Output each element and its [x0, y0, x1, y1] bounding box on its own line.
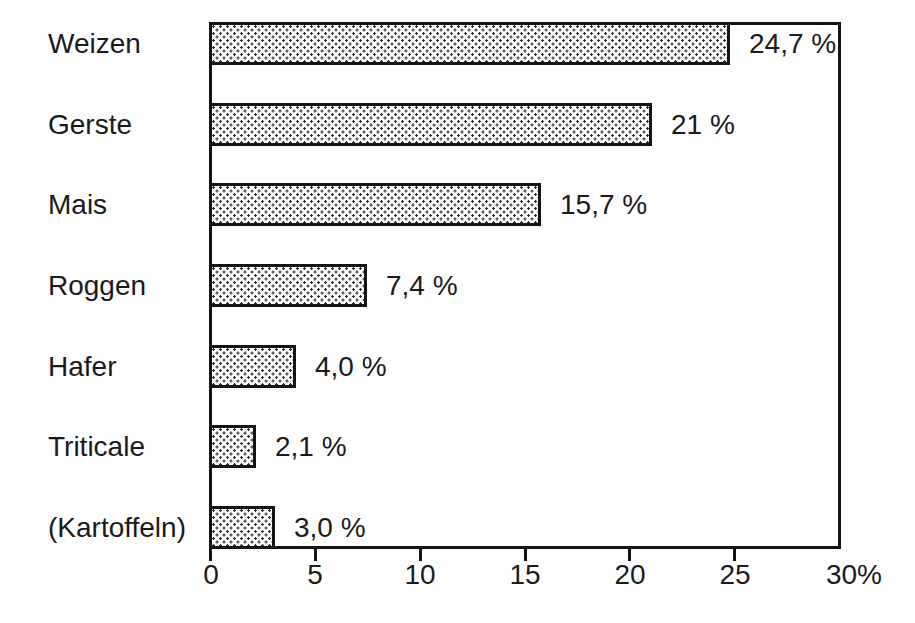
x-axis-tick-label: 0 — [166, 560, 256, 591]
x-axis-tick-label: 20 — [585, 560, 675, 591]
x-axis-tick-label: 30% — [809, 560, 899, 591]
category-label: Weizen — [48, 28, 141, 59]
category-label: Mais — [48, 189, 107, 220]
x-axis-tick-label: 5 — [270, 560, 360, 591]
bar — [209, 506, 275, 549]
value-label: 15,7 % — [560, 189, 647, 220]
value-label: 21 % — [671, 109, 735, 140]
category-label: (Kartoffeln) — [48, 512, 186, 543]
bar — [209, 183, 541, 226]
bar — [209, 103, 652, 146]
category-label: Gerste — [48, 109, 132, 140]
bar — [209, 264, 367, 307]
value-label: 4,0 % — [315, 351, 387, 382]
x-axis-tick-label: 10 — [375, 560, 465, 591]
category-label: Hafer — [48, 351, 116, 382]
x-axis-tick-label: 25 — [690, 560, 780, 591]
bar — [209, 345, 296, 388]
crop-share-bar-chart: Weizen24,7 %Gerste21 %Mais15,7 %Roggen7,… — [0, 0, 915, 623]
category-label: Roggen — [48, 270, 146, 301]
bar — [209, 425, 256, 468]
value-label: 7,4 % — [386, 270, 458, 301]
value-label: 3,0 % — [294, 512, 366, 543]
category-label: Triticale — [48, 431, 145, 462]
value-label: 24,7 % — [749, 28, 836, 59]
value-label: 2,1 % — [275, 431, 347, 462]
bar — [209, 22, 730, 65]
x-axis-tick-label: 15 — [480, 560, 570, 591]
